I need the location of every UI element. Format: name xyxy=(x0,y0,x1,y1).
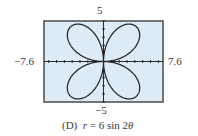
caption-theta: θ xyxy=(128,119,133,131)
x-min-label: −7.6 xyxy=(14,56,34,67)
x-max-label: 7.6 xyxy=(168,56,182,67)
y-min-label: −5 xyxy=(95,105,107,116)
figure-caption: (D) r = 6 sin 2θ xyxy=(62,119,134,131)
caption-letter: (D) xyxy=(62,119,77,131)
y-max-label: 5 xyxy=(97,5,103,16)
caption-equation: = 6 sin 2 xyxy=(90,119,128,131)
caption-var: r xyxy=(83,119,87,131)
